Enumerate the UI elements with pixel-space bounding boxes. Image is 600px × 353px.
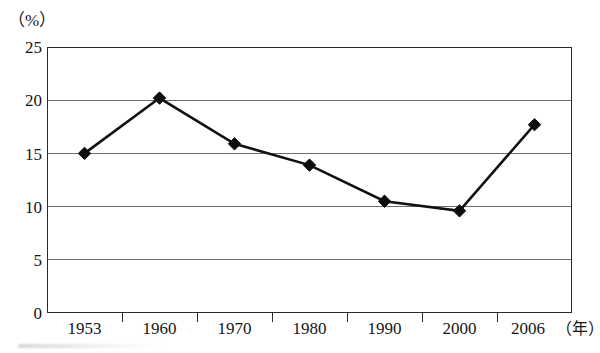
- y-tick-label-0: 0: [4, 305, 42, 322]
- x-tick-label-1960: 1960: [122, 319, 197, 338]
- line-chart: （%） 25 20 15 10 5 0 1953 1960 1970 1980 …: [0, 0, 600, 353]
- x-tick-label-1980: 1980: [272, 319, 347, 338]
- scan-artifact: [18, 344, 168, 348]
- plot-area: [47, 47, 572, 313]
- x-tick-label-1970: 1970: [197, 319, 272, 338]
- gridline-20: [48, 100, 571, 101]
- x-axis-unit-label: （年）: [556, 319, 600, 338]
- y-tick-label-10: 10: [4, 199, 42, 216]
- x-tick-label-2006: 2006: [497, 319, 559, 338]
- y-tick-label-15: 15: [4, 146, 42, 163]
- y-tick-label-25: 25: [4, 39, 42, 56]
- y-axis-unit-label: （%）: [8, 6, 56, 31]
- y-tick-label-5: 5: [4, 252, 42, 269]
- x-tick-label-1953: 1953: [47, 319, 122, 338]
- x-tick-label-1990: 1990: [347, 319, 422, 338]
- gridline-15: [48, 153, 571, 154]
- gridline-5: [48, 259, 571, 260]
- x-tick-label-2000: 2000: [422, 319, 497, 338]
- gridline-10: [48, 206, 571, 207]
- y-tick-label-20: 20: [4, 92, 42, 109]
